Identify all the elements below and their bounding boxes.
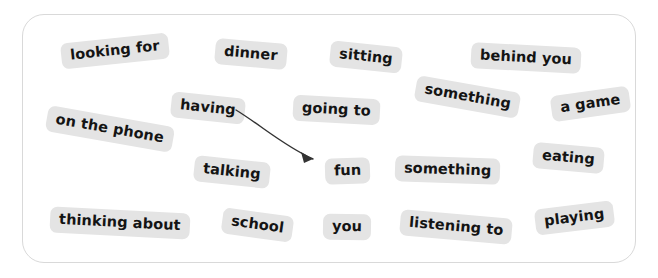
word-chip[interactable]: you bbox=[323, 214, 371, 240]
word-chip[interactable]: going to bbox=[292, 95, 380, 125]
word-bank-canvas: looking fordinnersittingbehind youhaving… bbox=[0, 0, 658, 278]
word-chip[interactable]: something bbox=[395, 155, 501, 184]
word-chip[interactable]: fun bbox=[325, 157, 371, 184]
